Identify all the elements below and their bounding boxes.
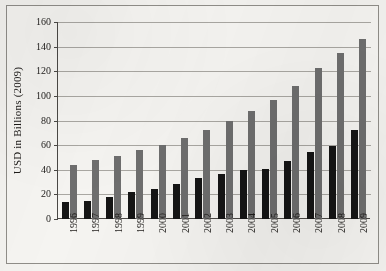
bar-dark-series-2009 [351, 130, 358, 219]
y-axis-tick-label: 0 [46, 214, 51, 224]
y-axis-tick-label: 160 [36, 17, 51, 27]
bar-group [236, 22, 258, 219]
bar-group [169, 22, 191, 219]
x-axis-tick-label: 2005 [270, 213, 280, 233]
bar-group [80, 22, 102, 219]
bar-gray-series-2008 [337, 53, 344, 219]
x-axis-tick-cell: 2005 [259, 221, 281, 263]
bar-chart: USD in Billions (2009) 02040608010012014… [0, 0, 386, 271]
bar-gray-series-2000 [159, 145, 166, 219]
x-axis-tick-label: 2004 [247, 213, 257, 233]
bar-dark-series-2006 [284, 161, 291, 219]
x-axis-tick-cell: 2004 [236, 221, 258, 263]
bar-dark-series-2001 [173, 184, 180, 219]
y-axis-tick [54, 219, 58, 220]
bar-gray-series-1997 [92, 160, 99, 219]
y-axis-tick-label: 60 [41, 140, 51, 150]
bar-group [147, 22, 169, 219]
x-axis-tick-label: 2008 [337, 213, 347, 233]
x-axis-tick-label: 1998 [114, 213, 124, 233]
bar-gray-series-2006 [292, 86, 299, 219]
y-axis-tick-label: 100 [36, 91, 51, 101]
x-axis-tick-label: 2009 [359, 213, 369, 233]
bar-gray-series-2007 [315, 68, 322, 219]
y-axis-tick-label: 40 [41, 165, 51, 175]
bar-group [348, 22, 370, 219]
bar-group [259, 22, 281, 219]
bar-gray-series-2002 [203, 130, 210, 219]
y-axis-tick-label: 140 [36, 42, 51, 52]
x-axis-tick-label: 1997 [91, 213, 101, 233]
bar-gray-series-2001 [181, 138, 188, 219]
x-axis-tick-cell: 1999 [125, 221, 147, 263]
x-axis-tick-cell: 2009 [348, 221, 370, 263]
x-axis-tick-label: 1996 [69, 213, 79, 233]
bar-group [303, 22, 325, 219]
x-axis-tick-label: 2000 [158, 213, 168, 233]
x-axis-tick-label: 2001 [181, 213, 191, 233]
bar-gray-series-2003 [226, 121, 233, 219]
bar-gray-series-2009 [359, 39, 366, 219]
bar-dark-series-2007 [307, 152, 314, 219]
x-axis-tick-cell: 2007 [303, 221, 325, 263]
x-axis-tick-cell: 1998 [103, 221, 125, 263]
x-axis-tick-cell: 2001 [169, 221, 191, 263]
x-axis-tick-cell: 1997 [80, 221, 102, 263]
x-axis-tick-label: 1999 [136, 213, 146, 233]
x-axis-tick-cell: 1996 [58, 221, 80, 263]
x-axis-tick-labels: 1996199719981999200020012002200320042005… [58, 221, 370, 263]
bar-dark-series-2004 [240, 170, 247, 219]
x-axis-tick-label: 2003 [225, 213, 235, 233]
bar-group [192, 22, 214, 219]
bar-gray-series-2005 [270, 100, 277, 219]
y-axis-tick-label: 120 [36, 66, 51, 76]
bar-group [214, 22, 236, 219]
bar-gray-series-2004 [248, 111, 255, 219]
bar-group [58, 22, 80, 219]
bar-group [103, 22, 125, 219]
x-axis-tick-cell: 2002 [192, 221, 214, 263]
y-axis-title: USD in Billions (2009) [10, 22, 24, 219]
bar-series-container [58, 22, 370, 219]
bar-group [125, 22, 147, 219]
bar-group [325, 22, 347, 219]
bar-gray-series-1996 [70, 165, 77, 219]
bar-dark-series-2005 [262, 169, 269, 219]
bar-gray-series-1998 [114, 156, 121, 219]
y-axis-tick-label: 80 [41, 116, 51, 126]
x-axis-tick-cell: 2003 [214, 221, 236, 263]
y-axis-tick-label: 20 [41, 189, 51, 199]
x-axis-tick-cell: 2006 [281, 221, 303, 263]
figure-root: USD in Billions (2009) 02040608010012014… [0, 0, 386, 271]
bar-gray-series-1999 [136, 150, 143, 219]
gridline [58, 219, 371, 220]
x-axis-tick-cell: 2008 [325, 221, 347, 263]
bar-group [281, 22, 303, 219]
bar-dark-series-2008 [329, 146, 336, 219]
x-axis-tick-label: 2006 [292, 213, 302, 233]
x-axis-tick-label: 2007 [314, 213, 324, 233]
x-axis-tick-label: 2002 [203, 213, 213, 233]
x-axis-tick-cell: 2000 [147, 221, 169, 263]
